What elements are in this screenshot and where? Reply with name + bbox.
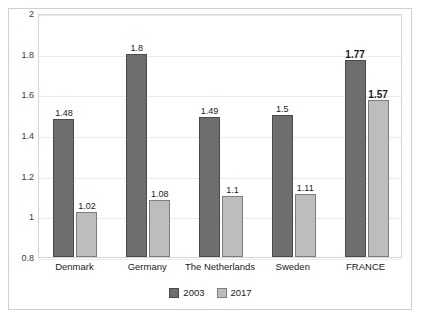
bar-france-2003[interactable] <box>345 60 366 257</box>
series-2017-swatch <box>217 288 227 298</box>
bar-chart-figure: 0.811.21.41.61.82 1.481.021.81.081.491.1… <box>0 0 421 319</box>
legend-item-2003[interactable]: 2003 <box>169 288 204 298</box>
bar-france-2017[interactable] <box>368 100 389 257</box>
x-axis-label-denmark: Denmark <box>38 262 111 272</box>
y-axis-tick-label: 1.8 <box>21 51 34 60</box>
legend-label: 2003 <box>183 288 204 298</box>
gridline <box>39 259 401 260</box>
bar-denmark-2003[interactable] <box>53 119 74 257</box>
x-axis-label-germany: Germany <box>111 262 184 272</box>
bar-value-label: 1.08 <box>141 190 178 199</box>
series-2003-swatch <box>169 288 179 298</box>
x-axis-label-sweden: Sweden <box>256 262 329 272</box>
bar-denmark-2017[interactable] <box>76 212 97 257</box>
bar-germany-2017[interactable] <box>149 200 170 257</box>
bar-value-label: 1.77 <box>337 50 374 60</box>
bar-germany-2003[interactable] <box>126 54 147 257</box>
y-axis-tick-label: 1.4 <box>21 132 34 141</box>
bar-the-netherlands-2017[interactable] <box>222 196 243 257</box>
bar-value-label: 1.57 <box>360 90 397 100</box>
legend-label: 2017 <box>231 288 252 298</box>
y-axis-tick-label: 1.6 <box>21 91 34 100</box>
y-axis-tick-label: 0.8 <box>21 254 34 263</box>
x-axis-label-france: FRANCE <box>329 262 402 272</box>
x-axis-label-the-netherlands: The Netherlands <box>184 262 257 272</box>
bar-value-label: 1.48 <box>45 109 82 118</box>
bar-value-label: 1.11 <box>287 184 324 193</box>
y-axis-tick-label: 1.2 <box>21 173 34 182</box>
bar-value-label: 1.02 <box>68 202 105 211</box>
chart-legend: 20032017 <box>0 288 421 298</box>
y-axis-tick-label: 2 <box>29 10 34 19</box>
y-axis-tick-label: 1 <box>29 213 34 222</box>
plot-area: 1.481.021.81.081.491.11.51.111.771.57 <box>38 14 402 258</box>
bar-value-label: 1.1 <box>214 186 251 195</box>
gridline <box>39 15 401 16</box>
bar-value-label: 1.49 <box>191 107 228 116</box>
legend-item-2017[interactable]: 2017 <box>217 288 252 298</box>
y-axis: 0.811.21.41.61.82 <box>8 14 34 258</box>
bar-value-label: 1.5 <box>264 105 301 114</box>
bar-value-label: 1.8 <box>118 44 155 53</box>
bar-sweden-2017[interactable] <box>295 194 316 257</box>
